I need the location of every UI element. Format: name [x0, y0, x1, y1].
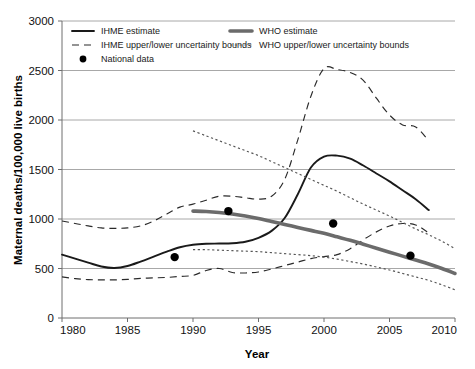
y-tick-label-2500: 2500: [28, 65, 54, 77]
y-tick-label-1000: 1000: [28, 213, 54, 225]
national-data-point-2: [224, 207, 232, 215]
y-tick-label-0: 0: [48, 312, 54, 324]
maternal-mortality-line-chart: 050010001500200025003000 198019851990199…: [0, 0, 475, 369]
x-axis-title: Year: [245, 348, 270, 360]
x-tick-label-2010: 2010: [431, 324, 457, 336]
x-tick-label-1990: 1990: [180, 324, 206, 336]
x-tick-label-1985: 1985: [115, 324, 141, 336]
legend-label-who-estimate: WHO estimate: [259, 26, 318, 36]
x-tick-label-2005: 2005: [377, 324, 403, 336]
y-tick-label-1500: 1500: [28, 164, 54, 176]
legend-label-national-data: National data: [101, 54, 154, 64]
x-tick-label-2000: 2000: [311, 324, 337, 336]
y-tick-label-3000: 3000: [28, 15, 54, 27]
chart-container: 050010001500200025003000 198019851990199…: [0, 0, 475, 369]
x-tick-labels-group: 1980198519901995200020052010: [60, 324, 457, 336]
legend-label-ihme-estimate: IHME estimate: [101, 26, 160, 36]
legend-label-who-upper-lower-uncertainty-bounds: WHO upper/lower uncertainty bounds: [259, 40, 410, 50]
y-tick-label-2000: 2000: [28, 114, 54, 126]
legend-marker-national-data: [80, 56, 87, 63]
legend-label-ihme-upper-lower-uncertainty-bounds: IHME upper/lower uncertainty bounds: [101, 40, 252, 50]
x-tick-label-1995: 1995: [246, 324, 272, 336]
y-axis-title: Maternal deaths/100,000 live births: [12, 75, 24, 265]
national-data-point-1: [170, 253, 178, 261]
x-tick-label-1980: 1980: [60, 324, 86, 336]
national-data-point-4: [406, 251, 414, 259]
national-data-point-3: [329, 219, 337, 227]
y-tick-label-500: 500: [35, 263, 54, 275]
chart-background: [0, 0, 475, 369]
